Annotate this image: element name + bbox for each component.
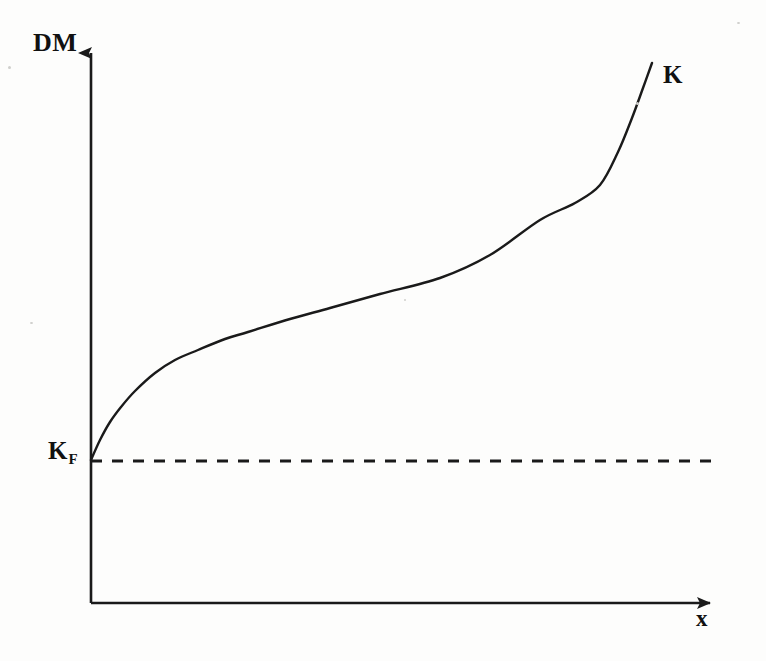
figure-canvas: DM K x KF [0, 0, 766, 661]
y-axis-label: DM [33, 30, 77, 56]
curve-k [91, 63, 652, 460]
kf-label-subscript: F [68, 451, 77, 467]
chart-svg [0, 0, 766, 661]
kf-label-main: K [48, 437, 67, 464]
kf-axis-label: KF [48, 438, 77, 463]
curve-label-k: K [663, 62, 682, 87]
x-axis-label: x [696, 607, 708, 630]
